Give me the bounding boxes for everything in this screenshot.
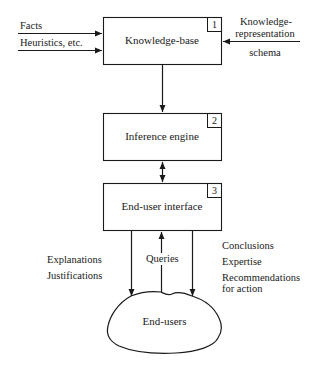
- end-user-interface-label: End-user interface: [103, 200, 221, 212]
- expertise-label: Expertise: [222, 256, 262, 268]
- end-user-interface-number: 3: [207, 184, 222, 197]
- knowledge-base-label: Knowledge-base: [103, 34, 221, 46]
- schema-label-line1: Knowledge-: [240, 16, 290, 28]
- inference-engine-label: Inference engine: [103, 130, 221, 142]
- for-action-label: for action: [222, 283, 263, 295]
- queries-label: Queries: [145, 253, 180, 265]
- justifications-label: Justifications: [47, 270, 102, 282]
- facts-label: Facts: [20, 20, 42, 32]
- explanations-label: Explanations: [47, 254, 102, 266]
- conclusions-label: Conclusions: [222, 240, 274, 252]
- end-users-label: End-users: [107, 315, 222, 327]
- schema-label-line3: schema: [240, 47, 290, 59]
- knowledge-base-number: 1: [207, 18, 222, 31]
- schema-label-line2: representation: [228, 28, 302, 40]
- heuristics-label: Heuristics, etc.: [20, 37, 83, 49]
- inference-engine-number: 2: [207, 114, 222, 127]
